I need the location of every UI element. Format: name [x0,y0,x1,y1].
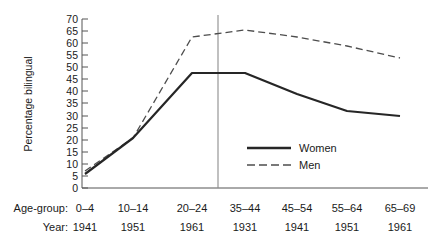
y-tick-label-70: 70 [66,13,78,25]
x-label-year-5: 1951 [335,221,359,233]
y-tick-label-0: 0 [72,182,78,194]
x-axis-row-header-age-group: Age-group: [14,202,68,214]
y-tick-label-50: 50 [66,61,78,73]
x-label-age-group-0: 0–4 [76,202,94,214]
y-tick-label-35: 35 [66,97,78,109]
x-label-year-3: 1931 [233,221,257,233]
x-label-age-group-1: 10–14 [118,202,149,214]
bilingualism-line-chart: 70 65 60 55 50 45 40 35 30 25 20 15 10 5… [0,0,434,241]
y-tick-label-65: 65 [66,25,78,37]
x-label-year-2: 1961 [180,221,204,233]
y-tick-label-10: 10 [66,158,78,170]
y-tick-label-5: 5 [72,170,78,182]
legend-label-men: Men [299,159,320,171]
x-label-age-group-5: 55–64 [332,202,363,214]
x-label-year-1: 1951 [121,221,145,233]
y-tick-label-15: 15 [66,146,78,158]
x-label-age-group-3: 35–44 [230,202,261,214]
y-tick-label-60: 60 [66,37,78,49]
y-tick-label-40: 40 [66,85,78,97]
y-tick-label-45: 45 [66,73,78,85]
y-axis-title: Percentage bilingual [22,56,34,151]
x-axis-row-header-year: Year: [43,221,68,233]
y-axis-tick-labels: 70 65 60 55 50 45 40 35 30 25 20 15 10 5… [66,13,78,194]
y-tick-label-30: 30 [66,110,78,122]
x-label-year-0: 1941 [73,221,97,233]
x-label-age-group-4: 45–54 [282,202,313,214]
x-label-year-6: 1961 [388,221,412,233]
x-label-age-group-6: 65–69 [385,202,416,214]
y-tick-label-20: 20 [66,134,78,146]
y-tick-label-55: 55 [66,49,78,61]
y-tick-label-25: 25 [66,122,78,134]
x-label-age-group-2: 20–24 [177,202,208,214]
chart-canvas: 70 65 60 55 50 45 40 35 30 25 20 15 10 5… [0,0,434,241]
x-label-year-4: 1941 [285,221,309,233]
legend-label-women: Women [299,142,337,154]
